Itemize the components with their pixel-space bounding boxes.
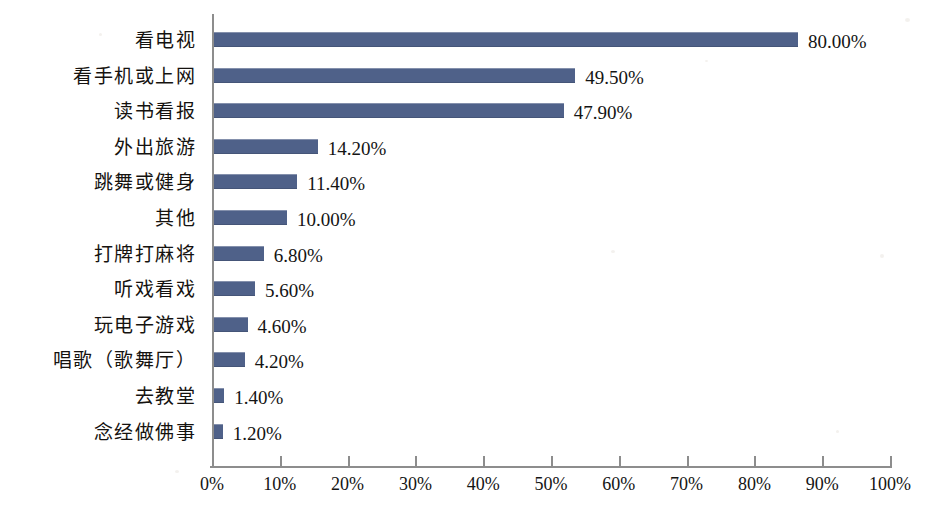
bar-chart: 看电视看手机或上网读书看报外出旅游跳舞或健身其他打牌打麻将听戏看戏玩电子游戏唱歌… xyxy=(0,0,940,532)
bar-value-label: 49.50% xyxy=(585,68,644,87)
scan-speck xyxy=(611,250,615,253)
category-label: 去教堂 xyxy=(0,387,196,406)
x-axis-tick-label: 20% xyxy=(331,474,364,494)
x-axis-tick-label: 80% xyxy=(738,474,771,494)
bar xyxy=(214,352,245,367)
x-axis-tick-label: 70% xyxy=(670,474,703,494)
x-axis-tick-label: 30% xyxy=(399,474,432,494)
bar-value-label: 5.60% xyxy=(265,281,314,300)
bar-value-label: 10.00% xyxy=(297,210,356,229)
plot-area: 0%10%20%30%40%50%60%70%80%90%100%80.00%4… xyxy=(212,0,940,532)
bar xyxy=(214,281,255,296)
x-axis-tick xyxy=(280,456,282,467)
category-label: 读书看报 xyxy=(0,102,196,121)
bar-value-label: 4.20% xyxy=(255,352,304,371)
x-axis-tick-label: 100% xyxy=(869,474,911,494)
x-axis-tick-label: 0% xyxy=(200,474,224,494)
x-axis-tick xyxy=(619,456,621,467)
bar xyxy=(214,424,223,439)
bar xyxy=(214,388,224,403)
x-axis-tick-label: 40% xyxy=(467,474,500,494)
x-axis-tick xyxy=(822,456,824,467)
category-label: 听戏看戏 xyxy=(0,280,196,299)
category-label: 唱歌（歌舞厅） xyxy=(0,351,196,370)
scan-speck xyxy=(905,18,910,22)
category-label: 外出旅游 xyxy=(0,138,196,157)
x-axis-tick-label: 10% xyxy=(263,474,296,494)
x-axis-tick xyxy=(551,456,553,467)
x-axis-tick-label: 50% xyxy=(535,474,568,494)
x-axis-tick xyxy=(687,456,689,467)
bar-value-label: 4.60% xyxy=(258,317,307,336)
bar-value-label: 1.20% xyxy=(233,424,282,443)
category-label: 玩电子游戏 xyxy=(0,316,196,335)
bar xyxy=(214,139,318,154)
bar-value-label: 1.40% xyxy=(234,388,283,407)
bar xyxy=(214,210,287,225)
scan-speck xyxy=(705,60,708,62)
x-axis-tick-label: 60% xyxy=(602,474,635,494)
category-label: 其他 xyxy=(0,209,196,228)
x-axis-tick xyxy=(348,456,350,467)
scan-speck xyxy=(880,254,884,258)
category-label: 打牌打麻将 xyxy=(0,245,196,264)
category-label: 看手机或上网 xyxy=(0,67,196,86)
x-axis-tick xyxy=(754,456,756,467)
x-axis-tick xyxy=(890,456,892,467)
x-axis-tick-label: 90% xyxy=(806,474,839,494)
bar xyxy=(214,68,575,83)
scan-speck xyxy=(175,470,179,473)
category-label: 看电视 xyxy=(0,31,196,50)
x-axis-tick xyxy=(415,456,417,467)
bar xyxy=(214,174,297,189)
bar xyxy=(214,103,564,118)
scan-speck xyxy=(836,430,839,433)
bar-value-label: 14.20% xyxy=(328,139,387,158)
bar-value-label: 80.00% xyxy=(808,32,867,51)
category-label: 跳舞或健身 xyxy=(0,173,196,192)
x-axis-tick xyxy=(483,456,485,467)
bar xyxy=(214,246,264,261)
bar xyxy=(214,32,798,47)
scan-speck xyxy=(99,33,102,36)
bar xyxy=(214,317,248,332)
bar-value-label: 47.90% xyxy=(574,103,633,122)
x-axis-tick xyxy=(212,456,214,467)
category-label: 念经做佛事 xyxy=(0,423,196,442)
bar-value-label: 6.80% xyxy=(274,246,323,265)
category-label-column: 看电视看手机或上网读书看报外出旅游跳舞或健身其他打牌打麻将听戏看戏玩电子游戏唱歌… xyxy=(0,0,196,532)
bar-value-label: 11.40% xyxy=(307,174,365,193)
